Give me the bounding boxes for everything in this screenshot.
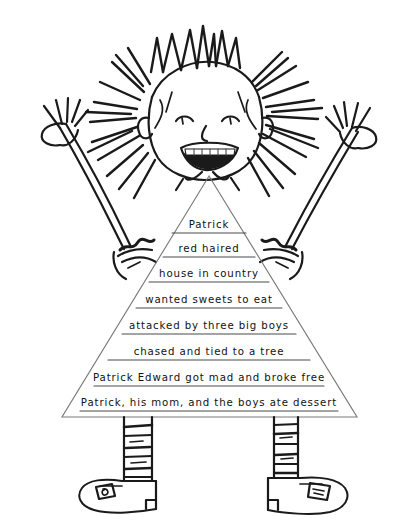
story-line-3-text: house in country: [159, 268, 259, 279]
right-leg-icon: [274, 417, 298, 478]
story-line-1: Patrick: [172, 219, 246, 233]
story-lines-group: Patrick red haired house in country want…: [80, 219, 338, 411]
mouth-icon: [181, 143, 238, 170]
story-line-4: wanted sweets to eat: [136, 294, 282, 308]
story-line-3: house in country: [149, 268, 269, 282]
hair-icon: [86, 26, 322, 198]
story-line-5: attacked by three big boys: [122, 320, 296, 334]
story-line-1-text: Patrick: [189, 219, 230, 230]
story-line-8-text: Patrick, his mom, and the boys ate desse…: [81, 397, 337, 408]
nose-icon: [202, 126, 207, 141]
story-line-2: red haired: [163, 243, 255, 257]
right-shoe-icon: [268, 477, 347, 514]
character-story-pyramid-illustration: Patrick red haired house in country want…: [0, 0, 418, 524]
story-line-7: Patrick Edward got mad and broke free: [93, 372, 325, 386]
eyes-icon: [176, 117, 239, 125]
story-line-4-text: wanted sweets to eat: [145, 294, 273, 305]
story-line-6: chased and tied to a tree: [108, 346, 310, 360]
left-leg-icon: [124, 417, 152, 481]
left-shoe-icon: [79, 480, 156, 513]
story-line-6-text: chased and tied to a tree: [134, 346, 285, 357]
story-line-2-text: red haired: [178, 243, 239, 254]
story-line-7-text: Patrick Edward got mad and broke free: [93, 372, 325, 383]
drawing-canvas: Patrick red haired house in country want…: [0, 0, 418, 524]
story-line-5-text: attacked by three big boys: [129, 320, 289, 331]
story-line-8: Patrick, his mom, and the boys ate desse…: [80, 397, 338, 411]
